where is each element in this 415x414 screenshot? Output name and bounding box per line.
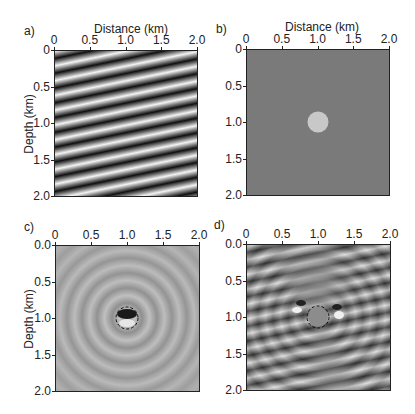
y-tick-label: 1.0 [11, 311, 51, 325]
x-tick-label: 1.5 [141, 33, 181, 47]
plot-area-a [54, 50, 198, 197]
x-tick-label: 1.5 [334, 227, 374, 241]
x-tick-label: 1.0 [106, 33, 146, 47]
x-tick-label: 1.5 [333, 32, 373, 46]
x-tick-label: 0.5 [262, 32, 302, 46]
scattered-field-image [56, 246, 199, 391]
y-tick-label: 0.5 [202, 79, 242, 93]
velocity-model-image [247, 50, 389, 195]
y-tick-label: 1.0 [10, 116, 50, 130]
plot-area-b [246, 49, 390, 196]
x-tick-label: 0.5 [71, 228, 111, 242]
y-tick-label: 2.0 [11, 384, 51, 398]
plane-wave-image [55, 51, 197, 196]
y-tick-label: 1.5 [202, 152, 242, 166]
plot-area-d [246, 244, 391, 391]
y-tick-label: 1.5 [10, 153, 50, 167]
y-tick-label: 1.0 [202, 115, 242, 129]
panel-label-c: c) [24, 220, 34, 234]
y-tick-label: 1.5 [202, 347, 242, 361]
scatter-bright-spot-right [334, 311, 344, 319]
total-field-image [247, 245, 390, 390]
scatter-dark-spot-left [296, 300, 306, 306]
x-tick-label: 2.0 [369, 32, 409, 46]
y-tick-label: 0 [10, 43, 50, 57]
x-tick-label: 0.5 [70, 33, 110, 47]
y-tick-label: 2.0 [202, 383, 242, 397]
y-tick-label: 0 [202, 42, 242, 56]
x-tick-label: 1.0 [298, 32, 338, 46]
y-tick-label: 2.0 [10, 189, 50, 203]
anomaly-circle [308, 112, 329, 133]
x-tick-label: 1.0 [107, 228, 147, 242]
x-tick-label: 1.0 [298, 227, 338, 241]
x-tick-label: 2.0 [370, 227, 410, 241]
anomaly-fill [308, 307, 328, 327]
scatter-dark-spot-right [332, 304, 342, 310]
x-tick-label: 0.5 [262, 227, 302, 241]
y-tick-label: 1.0 [202, 310, 242, 324]
y-tick-label: 0.0 [11, 238, 51, 252]
y-tick-label: 0.5 [10, 80, 50, 94]
y-tick-label: 0.0 [202, 237, 242, 251]
y-tick-label: 2.0 [202, 188, 242, 202]
plot-area-c [55, 245, 200, 392]
scatter-dark-lobe [117, 309, 137, 319]
y-tick-label: 1.5 [11, 348, 51, 362]
y-tick-label: 0.5 [11, 275, 51, 289]
y-tick-label: 0.5 [202, 274, 242, 288]
x-tick-label: 1.5 [143, 228, 183, 242]
scatter-light-lobe [119, 319, 135, 327]
scatter-bright-spot-left [292, 307, 302, 313]
